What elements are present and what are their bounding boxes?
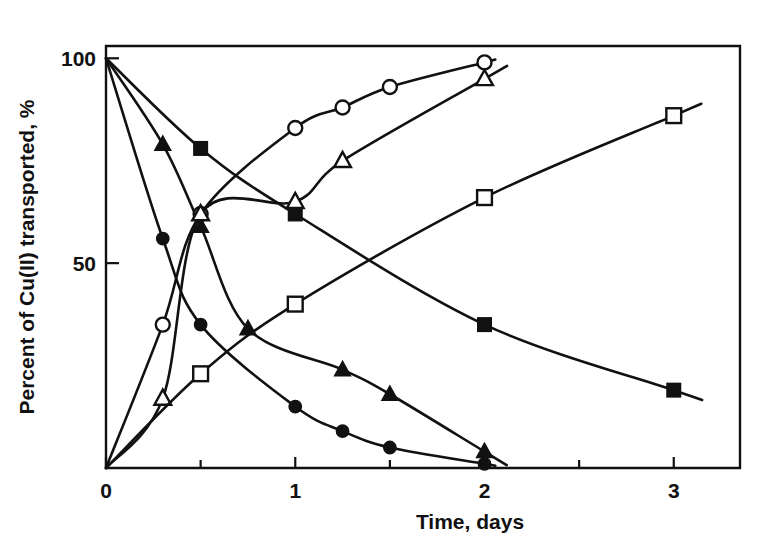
x-tick-label: 0	[100, 479, 112, 502]
marker-open-circle	[478, 55, 492, 69]
marker-filled-circle	[194, 318, 206, 330]
x-tick-label: 1	[289, 479, 301, 502]
marker-filled-circle	[157, 232, 169, 244]
series-curve	[106, 104, 701, 468]
x-tick-label: 3	[668, 479, 680, 502]
marker-open-triangle	[476, 70, 493, 85]
series-group	[106, 55, 702, 470]
series-open-square	[106, 104, 701, 468]
marker-filled-triangle	[477, 443, 493, 457]
marker-open-circle	[383, 80, 397, 94]
y-axis-tick-labels: 50100	[61, 47, 96, 275]
marker-filled-triangle	[155, 136, 171, 150]
marker-open-circle	[336, 100, 350, 114]
marker-filled-circle	[289, 400, 301, 412]
y-tick-label: 100	[61, 47, 96, 70]
marker-open-circle	[156, 318, 170, 332]
marker-open-circle	[288, 121, 302, 135]
marker-filled-square	[478, 318, 492, 332]
y-axis-ticks	[106, 58, 119, 263]
marker-open-square	[193, 366, 208, 381]
marker-filled-square	[667, 383, 681, 397]
marker-open-triangle	[334, 152, 351, 167]
marker-filled-circle	[336, 425, 348, 437]
figure-container: 0123 50100 Time, days Percent of Cu(II) …	[0, 0, 783, 553]
marker-open-square	[477, 190, 492, 205]
marker-open-square	[666, 108, 681, 123]
x-axis-title: Time, days	[416, 510, 524, 533]
marker-filled-triangle	[382, 386, 398, 400]
x-tick-label: 2	[479, 479, 491, 502]
x-axis-tick-labels: 0123	[100, 479, 679, 502]
axis-frame	[106, 46, 740, 468]
marker-filled-circle	[384, 441, 396, 453]
y-tick-label: 50	[73, 252, 96, 275]
x-axis-ticks	[106, 457, 674, 468]
plot-border	[106, 46, 740, 468]
marker-filled-circle	[478, 458, 490, 470]
marker-filled-square	[194, 142, 208, 156]
marker-open-square	[288, 297, 303, 312]
y-axis-title: Percent of Cu(II) transported, %	[15, 99, 38, 414]
chart-plot: 0123 50100 Time, days Percent of Cu(II) …	[0, 0, 783, 553]
